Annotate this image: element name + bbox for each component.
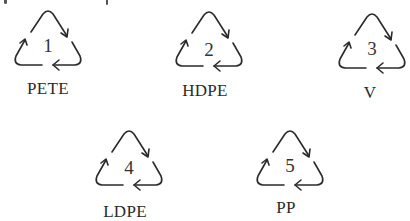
resin-label-pp: PP [261,199,311,217]
resin-code-number: 1 [3,36,93,56]
resin-code-number: 3 [327,39,410,59]
resin-code-number: 4 [84,158,174,178]
resin-code-number: 2 [164,40,254,60]
resin-label-v: V [355,84,385,102]
resin-label-pete: PETE [18,80,78,98]
resin-label-hdpe: HDPE [175,82,235,100]
clipped-text-fragment [106,0,108,5]
resin-label-ldpe: LDPE [95,203,155,221]
resin-code-number: 5 [245,156,335,176]
clipped-text-fragment [4,0,7,4]
